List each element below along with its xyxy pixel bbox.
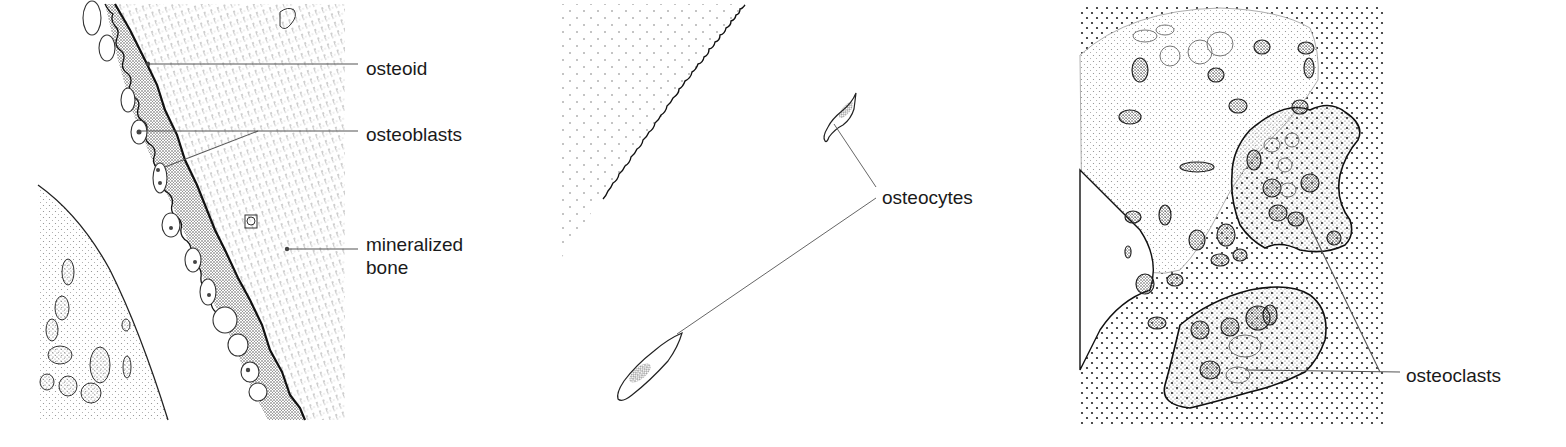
panel-bone-formation	[38, 1, 358, 420]
label-bone: bone	[366, 257, 408, 279]
label-osteoclasts: osteoclasts	[1406, 365, 1501, 387]
label-osteocytes: osteocytes	[882, 187, 973, 209]
histology-figure: osteoid osteoblasts mineralized bone ost…	[0, 0, 1566, 447]
label-mineralized: mineralized	[366, 234, 463, 256]
panel-bone-resorption	[1080, 4, 1400, 424]
panel2-leader-lines	[677, 124, 876, 334]
mineralized-bone-region	[115, 4, 345, 420]
bone-matrix-region	[560, 4, 745, 260]
label-osteoid: osteoid	[366, 58, 427, 80]
label-osteoblasts: osteoblasts	[366, 124, 462, 146]
panel-osteocytes	[560, 4, 876, 400]
figure-drawing	[0, 0, 1566, 447]
